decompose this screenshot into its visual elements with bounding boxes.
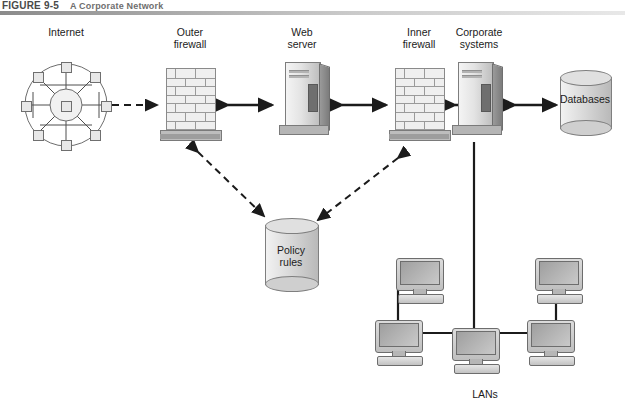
label-web-server: Web server — [262, 26, 342, 50]
internet-node — [90, 72, 101, 83]
label-internet: Internet — [26, 26, 106, 38]
label-corporate-systems: Corporate systems — [434, 26, 524, 50]
internet-node — [21, 101, 32, 112]
internet-node — [61, 101, 72, 112]
internet-node — [61, 62, 72, 73]
link-outer-firewall-policy-rules — [198, 152, 264, 216]
policy-rules-label: Policy rules — [265, 244, 317, 268]
internet-node — [101, 101, 112, 112]
internet-node — [61, 140, 72, 151]
policy-rules-icon: Policy rules — [265, 218, 317, 292]
internet-node — [90, 130, 101, 141]
label-outer-firewall: Outer firewall — [150, 26, 230, 50]
label-lans: LANs — [455, 388, 515, 400]
internet-node — [33, 130, 44, 141]
internet-node — [33, 72, 44, 83]
link-inner-firewall-policy-rules — [318, 158, 398, 220]
figure-canvas: FIGURE 9-5 A Corporate Network — [0, 0, 625, 409]
label-databases: Databases — [545, 93, 625, 105]
